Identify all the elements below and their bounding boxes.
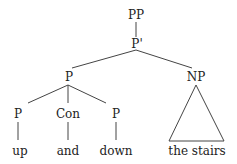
node-p-up: P	[14, 108, 22, 120]
node-p: P	[65, 71, 73, 83]
word-up: up	[12, 145, 27, 157]
words-the-stairs: the stairs	[168, 145, 225, 157]
word-down: down	[100, 145, 133, 157]
node-p-bar: P'	[131, 38, 142, 50]
node-p-down: P	[112, 108, 120, 120]
node-np: NP	[187, 71, 206, 83]
node-con: Con	[56, 108, 80, 120]
word-and: and	[57, 145, 80, 157]
node-pp: PP	[128, 9, 144, 21]
